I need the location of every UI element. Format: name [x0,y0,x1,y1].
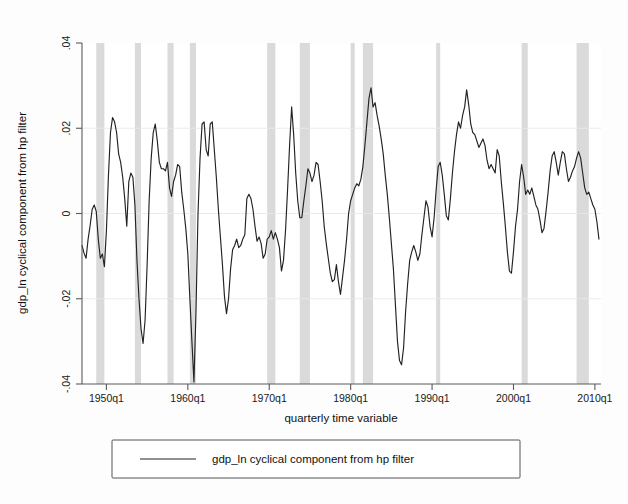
x-axis-tick-label: 1950q1 [89,392,124,404]
legend-label-series: gdp_ln cyclical component from hp filter [212,453,414,465]
x-axis-tick-label: 2000q1 [496,392,531,404]
x-axis-tick-label: 2010q1 [577,392,612,404]
y-axis-tick-label: 0 [60,210,72,216]
line-chart-canvas: .04.020-.02-.04 1950q11960q11970q11980q1… [0,0,628,504]
x-axis-tick-label: 1960q1 [170,392,205,404]
x-axis-tick-label: 1970q1 [252,392,287,404]
x-axis-tick-label: 1980q1 [333,392,368,404]
x-axis-tick-label: 1990q1 [415,392,450,404]
y-axis-tick-label: -.02 [60,290,72,308]
y-axis-tick-label: .04 [60,36,72,51]
legend: gdp_ln cyclical component from hp filter [112,440,520,478]
y-axis-tick-label: -.04 [60,375,72,393]
y-axis-tick-label: .02 [60,121,72,136]
x-axis-title: quarterly time variable [284,412,397,424]
y-axis-title: gdp_ln cyclical component from hp filter [16,112,28,314]
chart-figure: .04.020-.02-.04 1950q11960q11970q11980q1… [0,0,628,504]
